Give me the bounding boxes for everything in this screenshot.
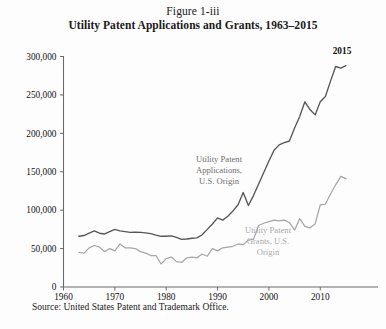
x-tick-label: 1960 (54, 292, 73, 300)
source-note: Source: United States Patent and Tradema… (32, 302, 229, 312)
y-tick-label: 250,000 (26, 90, 57, 100)
endpoint-year-label: 2015 (333, 46, 352, 56)
x-tick-label: 1980 (157, 292, 176, 300)
series-line-applications (79, 66, 346, 240)
x-tick-label: 1970 (106, 292, 125, 300)
x-tick-label: 2000 (260, 292, 279, 300)
y-tick-label: 100,000 (26, 205, 57, 215)
annotation-applications-line1: Utility Patent (196, 154, 243, 164)
x-axis-ticks: 196019701980199020002010 (54, 287, 330, 300)
series-line-grants (79, 176, 346, 264)
y-tick-label: 150,000 (26, 167, 57, 177)
annotation-grants-line2: Grants, U.S. (247, 236, 290, 246)
annotation-applications-line3: U.S. Origin (199, 176, 240, 186)
y-tick-label: 200,000 (26, 129, 57, 139)
annotation-grants-line3: Origin (257, 247, 280, 257)
y-axis-ticks: 050,000100,000150,000200,000250,000300,0… (26, 52, 63, 293)
y-tick-label: 300,000 (26, 52, 57, 62)
y-tick-label: 50,000 (31, 244, 57, 254)
chart-canvas: 050,000100,000150,000200,000250,000300,0… (0, 0, 386, 300)
annotation-applications-line2: Applications, (196, 165, 242, 175)
x-tick-label: 1990 (208, 292, 227, 300)
y-tick-label: 0 (52, 282, 57, 292)
annotation-grants-line1: Utility Patent (245, 225, 292, 235)
x-tick-label: 2010 (311, 292, 330, 300)
annotation-applications: Utility Patent Applications, U.S. Origin (196, 154, 243, 186)
annotation-grants: Utility Patent Grants, U.S. Origin (245, 225, 292, 257)
figure-container: Figure 1-iii Utility Patent Applications… (0, 0, 386, 329)
